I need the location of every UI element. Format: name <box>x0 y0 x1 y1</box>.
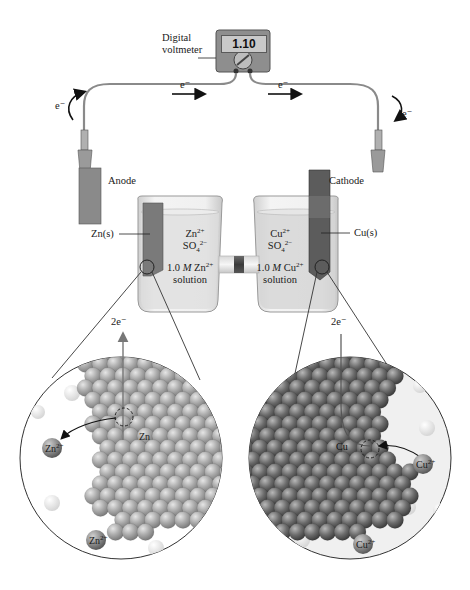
zn-ion-label-1: Zn2+ <box>45 443 64 455</box>
anode-electrons-out-label: 2e⁻ <box>111 316 126 328</box>
cu-ion-label-2: Cu2+ <box>356 539 375 551</box>
cu-atom-label: Cu <box>336 441 348 453</box>
cathode-solution-concentration: 1.0 M Cu2+ solution <box>240 262 320 286</box>
cu-electrode-label: Cu(s) <box>354 227 377 239</box>
anode-label: Anode <box>108 175 136 187</box>
electron-flow-arrows <box>69 92 402 120</box>
cathode-electrons-in-label: 2e⁻ <box>331 316 346 328</box>
voltmeter-label: Digital voltmeter <box>162 32 202 56</box>
zn-atom-label: Zn <box>139 431 150 443</box>
electron-label-left: e⁻ <box>55 100 65 112</box>
cathode-clip <box>371 130 385 172</box>
anode-solution-ions: Zn2+ SO42− <box>165 228 225 252</box>
cathode-solution-ions: Cu2+ SO42− <box>250 228 310 252</box>
anode-solution-concentration: 1.0 M Zn2+ solution <box>150 262 230 286</box>
zn-electrode-label: Zn(s) <box>91 228 114 240</box>
external-wires <box>84 73 378 135</box>
electron-label-top-left: e⁻ <box>180 79 190 91</box>
electron-label-right: e⁻ <box>402 108 412 120</box>
cu-ion-label-1: Cu2+ <box>416 459 435 471</box>
zn-ion-label-2: Zn2+ <box>89 535 108 547</box>
voltmeter-reading: 1.10 <box>221 35 267 53</box>
cathode-label: Cathode <box>329 175 364 187</box>
anode-clip <box>78 130 92 172</box>
electron-label-top-right: e⁻ <box>278 79 288 91</box>
galvanic-cell-diagram <box>0 0 470 590</box>
